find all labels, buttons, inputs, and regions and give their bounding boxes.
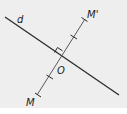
label-d: d [17, 14, 24, 25]
label-o: O [57, 65, 65, 76]
label-m-prime: M' [87, 9, 98, 20]
symmetry-diagram: d M' O M [0, 0, 127, 114]
label-m: M [26, 97, 35, 108]
